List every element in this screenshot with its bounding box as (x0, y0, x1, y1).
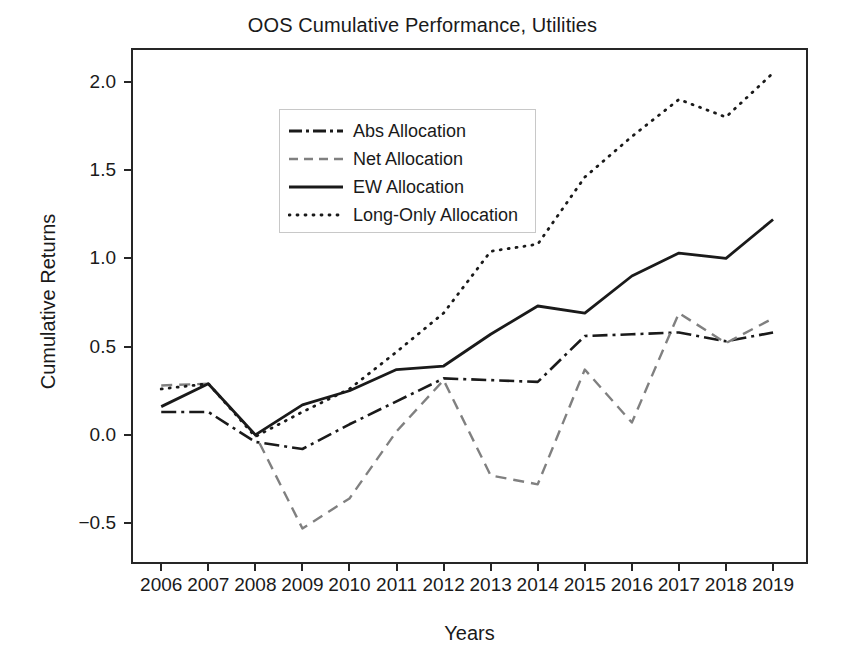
chart-figure: OOS Cumulative Performance, Utilities Ab… (0, 0, 845, 670)
x-tick-mark (490, 564, 492, 571)
y-axis-label: Cumulative Returns (37, 42, 60, 562)
x-tick-mark (631, 564, 633, 571)
legend-item-abs-allocation[interactable]: Abs Allocation (288, 117, 527, 145)
legend-item-net-allocation[interactable]: Net Allocation (288, 145, 527, 173)
legend-label-abs-allocation: Abs Allocation (353, 121, 466, 142)
y-tick-label: −0.5 (46, 513, 116, 532)
y-tick-label: 2.0 (46, 72, 116, 91)
y-tick-mark (124, 522, 131, 524)
x-tick-mark (537, 564, 539, 571)
y-tick-mark (124, 346, 131, 348)
x-tick-mark (678, 564, 680, 571)
series-line-ew-allocation (161, 219, 773, 434)
legend-swatch-dashed-icon (288, 152, 344, 166)
x-tick-mark (160, 564, 162, 571)
legend-swatch-dashdot-icon (288, 124, 344, 138)
legend-item-long-only-allocation[interactable]: Long-Only Allocation (288, 201, 527, 229)
x-tick-mark (584, 564, 586, 571)
x-tick-label: 2019 (743, 575, 803, 594)
y-tick-mark (124, 257, 131, 259)
y-tick-label: 0.0 (46, 425, 116, 444)
x-tick-mark (254, 564, 256, 571)
chart-legend: Abs Allocation Net Allocation EW Allocat… (279, 109, 536, 233)
y-tick-mark (124, 169, 131, 171)
legend-label-net-allocation: Net Allocation (353, 149, 463, 170)
legend-swatch-dotted-icon (288, 208, 344, 222)
legend-item-ew-allocation[interactable]: EW Allocation (288, 173, 527, 201)
y-tick-label: 1.5 (46, 160, 116, 179)
x-axis-label: Years (131, 622, 808, 645)
x-tick-mark (348, 564, 350, 571)
legend-label-long-only-allocation: Long-Only Allocation (353, 205, 518, 226)
x-tick-mark (301, 564, 303, 571)
x-tick-mark (772, 564, 774, 571)
x-tick-mark (396, 564, 398, 571)
legend-label-ew-allocation: EW Allocation (353, 177, 464, 198)
legend-swatch-solid-icon (288, 180, 344, 194)
x-tick-mark (443, 564, 445, 571)
x-tick-mark (725, 564, 727, 571)
y-tick-label: 1.0 (46, 248, 116, 267)
chart-title: OOS Cumulative Performance, Utilities (0, 14, 845, 37)
plot-area: Abs Allocation Net Allocation EW Allocat… (131, 48, 808, 564)
series-line-net-allocation (161, 313, 773, 528)
x-tick-mark (207, 564, 209, 571)
y-tick-mark (124, 81, 131, 83)
y-tick-label: 0.5 (46, 337, 116, 356)
y-tick-mark (124, 434, 131, 436)
